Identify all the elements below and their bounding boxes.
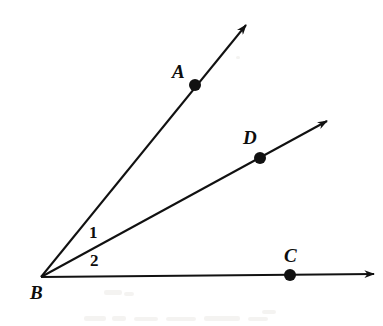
geometry-canvas bbox=[0, 0, 383, 326]
angle-label-2: 2 bbox=[90, 252, 99, 269]
point-label-b: B bbox=[30, 283, 43, 302]
geometry-figure: A D C B 1 2 bbox=[0, 0, 383, 326]
point-label-c: C bbox=[284, 246, 297, 265]
ray-bc bbox=[41, 274, 374, 277]
points-group bbox=[189, 79, 296, 281]
point-marker-c bbox=[284, 269, 296, 281]
point-label-a: A bbox=[172, 62, 185, 81]
angle-label-1: 1 bbox=[89, 224, 98, 241]
ray-ba bbox=[41, 25, 246, 277]
point-label-d: D bbox=[243, 128, 257, 147]
point-marker-a bbox=[189, 79, 201, 91]
point-marker-d bbox=[254, 152, 266, 164]
